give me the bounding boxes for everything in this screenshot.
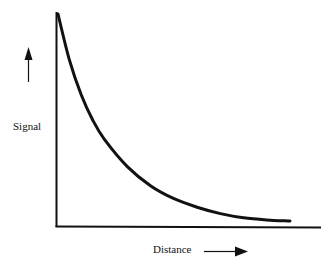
chart-canvas: Signal Distance [0, 0, 325, 268]
y-axis-label: Signal [13, 120, 41, 132]
plot-area [0, 0, 325, 268]
signal-decay-curve [58, 14, 290, 221]
right-arrow-icon [204, 247, 248, 257]
x-axis-line [56, 227, 322, 228]
up-arrow-icon [25, 47, 33, 82]
x-axis-label: Distance [153, 243, 191, 255]
